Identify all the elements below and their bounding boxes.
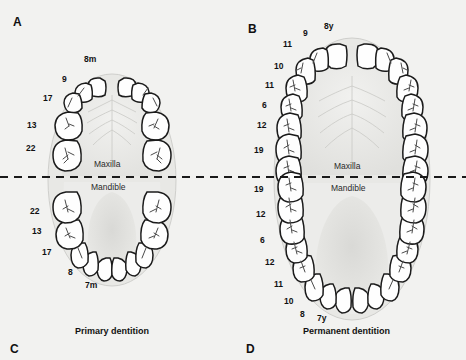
eruption-label-a-mandible-1: 22	[30, 207, 39, 216]
eruption-label-b-mandible-3: 6	[260, 236, 265, 245]
eruption-label-a-maxilla-2: 9	[62, 75, 67, 84]
panel-letter-d: D	[246, 342, 255, 356]
eruption-label-a-mandible-2: 13	[32, 227, 41, 236]
eruption-label-a-mandible-4: 8	[68, 268, 73, 277]
panel-letter-a: A	[13, 15, 22, 29]
eruption-label-b-maxilla-5: 11	[265, 81, 274, 90]
eruption-label-b-maxilla-1: 8y	[324, 22, 333, 31]
eruption-label-b-mandible-2: 12	[256, 210, 265, 219]
eruption-label-b-mandible-1: 19	[254, 185, 263, 194]
eruption-label-b-maxilla-4: 10	[274, 62, 283, 71]
arch-illustration-svg	[0, 0, 466, 360]
eruption-label-b-maxilla-6: 6	[262, 101, 267, 110]
caption-permanent-dentition: Permanent dentition	[303, 326, 390, 336]
eruption-label-b-maxilla-7: 12	[257, 121, 266, 130]
panel-letter-b: B	[248, 22, 257, 36]
eruption-label-a-maxilla-3: 17	[43, 94, 52, 103]
jaw-label-maxilla-b: Maxilla	[334, 162, 360, 171]
eruption-label-a-mandible-3: 17	[42, 248, 51, 257]
eruption-label-b-maxilla-8: 19	[254, 146, 263, 155]
eruption-label-b-mandible-7: 8	[300, 310, 305, 319]
dental-arch-figure: A B Maxilla Mandible 8m 9 17 13 22 22 13…	[0, 0, 466, 360]
eruption-label-b-mandible-5: 11	[274, 280, 283, 289]
panel-a-arch	[48, 74, 176, 286]
eruption-label-b-mandible-4: 12	[265, 258, 274, 267]
jaw-label-mandible-a: Mandible	[91, 183, 126, 192]
eruption-label-b-maxilla-3: 11	[283, 40, 292, 49]
panel-b-arch	[274, 38, 430, 320]
eruption-label-b-mandible-8: 7y	[317, 314, 326, 323]
eruption-label-a-maxilla-1: 8m	[84, 55, 96, 64]
eruption-label-b-mandible-6: 10	[284, 297, 293, 306]
eruption-label-a-maxilla-5: 22	[26, 144, 35, 153]
jaw-label-mandible-b: Mandible	[331, 184, 366, 193]
jaw-label-maxilla-a: Maxilla	[94, 160, 120, 169]
caption-primary-dentition: Primary dentition	[75, 326, 149, 336]
eruption-label-b-maxilla-2: 9	[303, 29, 308, 38]
eruption-label-a-mandible-5: 7m	[85, 281, 97, 290]
eruption-label-a-maxilla-4: 13	[27, 121, 36, 130]
panel-letter-c: C	[10, 342, 19, 356]
